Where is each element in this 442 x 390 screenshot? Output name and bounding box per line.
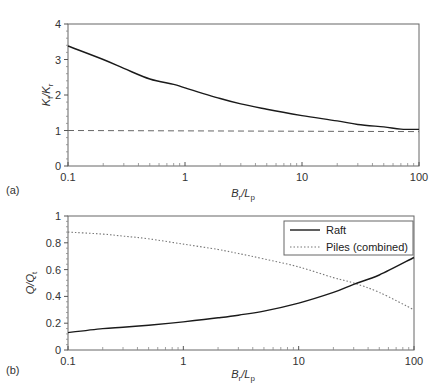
y-tick-label: 1 xyxy=(55,210,61,222)
x-tick-label: 0.1 xyxy=(60,171,75,183)
y-tick-label: 4 xyxy=(55,18,61,30)
y-tick-label: 0.8 xyxy=(46,237,61,249)
legend-raft-label: Raft xyxy=(326,224,346,236)
x-tick-label: 10 xyxy=(293,355,305,367)
y-axis-title-a: Kf/Kr xyxy=(40,83,55,106)
reference-dashed-line xyxy=(68,131,419,132)
y-axis-a: 01234 xyxy=(55,18,68,172)
y-tick-label: 1 xyxy=(55,125,61,137)
panel-label-b: (b) xyxy=(6,364,19,376)
y-tick-label: 2 xyxy=(55,89,61,101)
x-axis-title-b: Br/Lp xyxy=(231,368,255,383)
chart-panel-b: 00.20.40.60.81 0.1110100 Raft Piles (com… xyxy=(6,210,423,383)
x-axis-b: 0.1110100 xyxy=(60,346,423,367)
raft-curve xyxy=(68,258,414,333)
panel-label-a: (a) xyxy=(6,184,19,196)
y-axis-title-b: Q/Qt xyxy=(24,271,39,294)
x-tick-label: 1 xyxy=(180,355,186,367)
x-axis-a: 0.1110100 xyxy=(60,162,428,183)
kf-kr-curve xyxy=(68,46,419,129)
y-tick-label: 0.4 xyxy=(46,290,61,302)
chart-panel-a: 01234 0.1110100 Kf/Kr Br/Lp (a) xyxy=(6,18,428,202)
legend-piles-label: Piles (combined) xyxy=(326,241,408,253)
y-tick-label: 0.6 xyxy=(46,264,61,276)
x-axis-title-a: Br/Lp xyxy=(231,187,255,202)
y-tick-label: 0.2 xyxy=(46,317,61,329)
legend: Raft Piles (combined) xyxy=(284,221,413,255)
x-tick-label: 0.1 xyxy=(60,355,75,367)
x-tick-label: 100 xyxy=(410,171,428,183)
x-tick-label: 100 xyxy=(405,355,423,367)
plot-area-a xyxy=(68,24,419,166)
x-tick-label: 1 xyxy=(182,171,188,183)
y-axis-b: 00.20.40.60.81 xyxy=(46,210,68,356)
y-tick-label: 3 xyxy=(55,54,61,66)
figure: 01234 0.1110100 Kf/Kr Br/Lp (a) 00.20.40… xyxy=(0,0,442,390)
x-tick-label: 10 xyxy=(296,171,308,183)
